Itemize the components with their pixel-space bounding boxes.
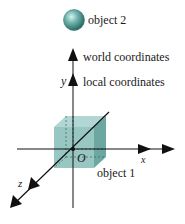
origin-label: O	[77, 151, 86, 165]
y-axis-label: y	[60, 74, 67, 88]
x-axis-label: x	[140, 154, 146, 165]
world-coordinates-label: world coordinates	[83, 50, 170, 64]
z-world-arrowhead	[10, 195, 22, 208]
local-coordinates-label: local coordinates	[83, 75, 165, 89]
x-local-arrowhead	[138, 144, 151, 154]
z-local-arrowhead	[28, 177, 40, 190]
x-world-arrowhead	[162, 144, 175, 154]
coordinate-diagram: object 2 y world coordinates local coord…	[0, 0, 185, 224]
y-local-arrowhead	[68, 73, 78, 86]
z-axis-label: z	[17, 177, 23, 189]
object-2-sphere	[64, 10, 85, 31]
y-world-arrowhead	[68, 48, 78, 61]
origin-point	[71, 147, 75, 151]
object-2-label: object 2	[88, 13, 126, 27]
object-1-label: object 1	[97, 166, 135, 180]
